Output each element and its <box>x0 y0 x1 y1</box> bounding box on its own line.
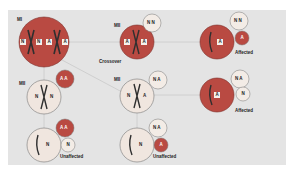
outcome-label-unaffected: Unaffected <box>153 155 176 160</box>
polar-body-label: A A <box>60 126 67 131</box>
crossover-label: Crossover <box>99 60 121 65</box>
polar-body-label: N N <box>147 21 155 26</box>
stage-label-mii: MII <box>114 78 120 83</box>
polar-body-label: N A <box>235 77 243 82</box>
polar-body-label: A <box>241 36 244 41</box>
polar-body-label: N <box>242 92 245 97</box>
polar-body-label: N A <box>153 78 161 83</box>
allele-label: A <box>219 40 222 45</box>
mii-top-cell <box>120 14 161 59</box>
allele-label: N <box>37 40 40 45</box>
allele-label: A <box>126 40 129 45</box>
outcome-label-affected: Affected <box>235 51 253 56</box>
allele-label: A <box>216 93 219 98</box>
allele-label: A <box>143 94 146 99</box>
allele-label: N <box>50 95 53 100</box>
polar-body-label: N A <box>153 126 161 131</box>
allele-label: A <box>64 40 67 45</box>
outcome-label-affected: Affected <box>235 109 253 114</box>
allele-label: N <box>127 94 130 99</box>
meiosis-diagram <box>0 0 290 174</box>
polar-body-label: N <box>67 143 70 148</box>
stage-label-mii: MII <box>19 82 25 87</box>
mi-cell <box>19 17 69 67</box>
allele-label: A <box>143 40 146 45</box>
allele-label: N <box>35 95 38 100</box>
allele-label: N <box>46 143 49 148</box>
allele-label: N <box>21 40 24 45</box>
stage-label-mi: MI <box>17 18 22 23</box>
outcome-label-unaffected: Unaffected <box>60 155 83 160</box>
stage-label-mii: MII <box>114 24 120 29</box>
allele-label: N <box>139 143 142 148</box>
polar-body-label: N N <box>234 19 242 24</box>
polar-body-label: A <box>160 143 163 148</box>
allele-label: A <box>48 40 51 45</box>
polar-body-label: A A <box>60 77 67 82</box>
